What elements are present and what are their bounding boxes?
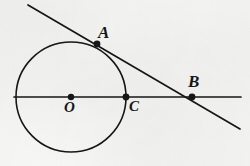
lines-group: [14, 5, 241, 129]
geometry-figure: A B O C: [0, 0, 250, 166]
geometry-canvas: [0, 0, 250, 166]
point-b-dot: [189, 94, 196, 101]
point-label-a: A: [98, 24, 109, 41]
point-label-o: O: [64, 100, 75, 115]
point-label-b: B: [188, 73, 199, 90]
point-label-c: C: [129, 99, 139, 114]
